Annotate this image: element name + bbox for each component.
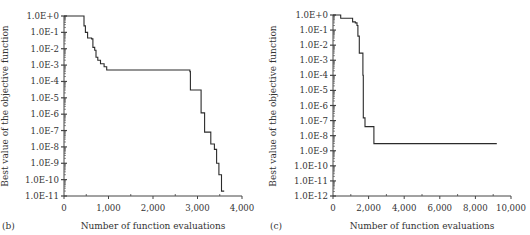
y-axis-title-b: Best value of the objective function — [0, 25, 10, 187]
x-axis-title-c: Number of function evaluations — [350, 221, 495, 231]
y-tick-label: 1.0E-7 — [31, 126, 59, 136]
chart-panel-c: 1.0E+01.0E-11.0E-21.0E-31.0E-41.0E-51.0E… — [268, 10, 526, 231]
y-tick-label: 1.0E+0 — [295, 10, 328, 20]
y-tick-label: 1.0E-1 — [300, 25, 328, 35]
y-axis-title-c: Best value of the objective function — [268, 25, 278, 187]
y-tick-label: 1.0E-1 — [31, 27, 59, 37]
x-tick-label: 8,000 — [463, 203, 488, 213]
y-tick-label: 1.0E-8 — [300, 131, 328, 141]
x-tick-label: 1,000 — [96, 203, 121, 213]
chart-panel-b: 1.0E+01.0E-11.0E-21.0E-31.0E-41.0E-51.0E… — [0, 11, 254, 231]
y-tick-label: 1.0E-4 — [300, 70, 329, 80]
figure: 1.0E+01.0E-11.0E-21.0E-31.0E-41.0E-51.0E… — [0, 0, 530, 235]
x-tick-label: 4,000 — [392, 203, 417, 213]
y-tick-label: 1.0E-6 — [300, 101, 328, 111]
series-line-b — [64, 16, 224, 191]
y-tick-label: 1.0E-5 — [31, 93, 59, 103]
y-tick-label: 1.0E-11 — [294, 176, 328, 186]
panel-label-b: (b) — [2, 221, 15, 231]
x-tick-label: 10,000 — [496, 203, 526, 213]
y-axis-b: 1.0E+01.0E-11.0E-21.0E-31.0E-41.0E-51.0E… — [25, 11, 67, 201]
x-tick-label: 0 — [61, 203, 66, 213]
y-tick-label: 1.0E+0 — [26, 11, 59, 21]
x-tick-label: 0 — [330, 203, 335, 213]
y-tick-label: 1.0E-3 — [31, 60, 59, 70]
x-tick-label: 2,000 — [141, 203, 166, 213]
y-tick-label: 1.0E-5 — [300, 85, 328, 95]
y-tick-label: 1.0E-9 — [31, 158, 59, 168]
y-tick-label: 1.0E-3 — [300, 55, 328, 65]
y-tick-label: 1.0E-10 — [25, 175, 59, 185]
x-tick-label: 6,000 — [427, 203, 452, 213]
series-line-c — [333, 15, 497, 144]
x-axis-b: 01,0002,0003,0004,000 — [61, 194, 254, 213]
x-tick-label: 3,000 — [185, 203, 210, 213]
x-axis-title-b: Number of function evaluations — [81, 221, 226, 231]
y-tick-label: 1.0E-4 — [31, 76, 60, 86]
y-tick-label: 1.0E-2 — [300, 40, 328, 50]
x-axis-c: 02,0004,0006,0008,00010,000 — [330, 194, 526, 213]
y-tick-label: 1.0E-12 — [294, 191, 328, 201]
panel-label-c: (c) — [270, 221, 282, 231]
y-tick-label: 1.0E-10 — [294, 161, 328, 171]
y-tick-label: 1.0E-2 — [31, 44, 59, 54]
y-tick-label: 1.0E-8 — [31, 142, 59, 152]
y-axis-c: 1.0E+01.0E-11.0E-21.0E-31.0E-41.0E-51.0E… — [294, 10, 336, 201]
x-tick-label: 4,000 — [230, 203, 255, 213]
y-tick-label: 1.0E-7 — [300, 116, 328, 126]
y-tick-label: 1.0E-9 — [300, 146, 328, 156]
y-tick-label: 1.0E-11 — [25, 191, 59, 201]
x-tick-label: 2,000 — [356, 203, 381, 213]
y-tick-label: 1.0E-6 — [31, 109, 59, 119]
